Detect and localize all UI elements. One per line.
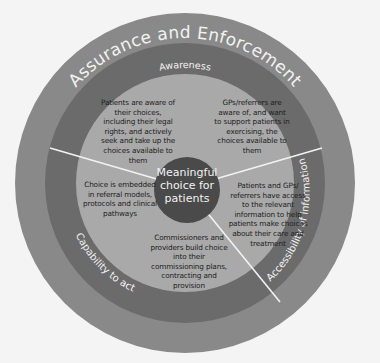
segment-left-text: Choice is embedded in referral models, p… xyxy=(80,180,160,218)
segment-bottom-text: Commissioners and providers build choice… xyxy=(148,233,230,291)
segment-top-left-text: Patients are aware of their choices, inc… xyxy=(100,98,176,165)
segment-top-right-text: GPs/referrers are aware of, and want to … xyxy=(214,98,290,156)
center-label: Meaningful choice for patients xyxy=(154,166,220,205)
segment-right-text: Patients and GPs/ referrers have access … xyxy=(226,181,310,248)
